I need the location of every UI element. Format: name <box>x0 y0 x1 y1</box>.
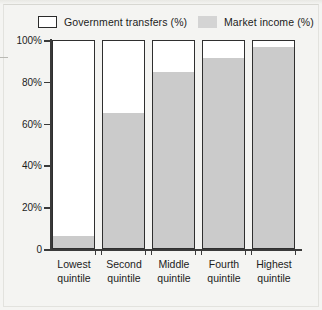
y-axis-tick-label-80: 80% <box>2 76 42 87</box>
bar-second-quintile[interactable] <box>102 40 145 249</box>
x-label-line-1: Highest <box>243 258 305 272</box>
bar-segment-government-transfers <box>203 41 244 58</box>
plot-area <box>52 40 296 249</box>
bar-segment-market-income <box>103 113 144 248</box>
bar-segment-government-transfers <box>103 41 144 113</box>
x-tick-mark <box>195 250 196 255</box>
y-axis-labels: 100% 80% 60% 40% 20% 0 <box>0 0 42 310</box>
y-tick-mark <box>44 207 51 209</box>
legend-item-market-income[interactable]: Market income (%) <box>198 12 314 32</box>
bar-middle-quintile[interactable] <box>152 40 195 249</box>
bar-segment-government-transfers <box>53 41 94 236</box>
legend-label-government-transfers: Government transfers (%) <box>64 16 187 28</box>
x-label-highest-quintile: Highest quintile <box>243 258 305 285</box>
x-tick-mark <box>201 250 202 255</box>
legend-item-government-transfers[interactable]: Government transfers (%) <box>38 12 187 32</box>
y-tick-mark <box>44 249 51 251</box>
bar-lowest-quintile[interactable] <box>52 40 95 249</box>
y-axis-tick-label-20: 20% <box>2 202 42 213</box>
x-axis-category-labels: Lowest quintile Second quintile Middle q… <box>52 258 296 302</box>
x-axis-line <box>50 249 302 251</box>
x-tick-mark <box>151 250 152 255</box>
x-tick-mark <box>295 250 296 255</box>
x-label-line-2: quintile <box>243 272 305 286</box>
bar-fourth-quintile[interactable] <box>202 40 245 249</box>
bar-segment-market-income <box>203 58 244 248</box>
legend-swatch-market-income-icon <box>198 16 217 28</box>
bar-segment-market-income <box>253 47 294 248</box>
x-tick-mark <box>145 250 146 255</box>
y-tick-mark <box>44 165 51 167</box>
x-tick-mark <box>245 250 246 255</box>
y-tick-mark <box>44 40 51 42</box>
bar-segment-market-income <box>153 72 194 248</box>
scan-edge-shading <box>0 0 322 4</box>
y-axis-tick-label-40: 40% <box>2 160 42 171</box>
chart-legend: Government transfers (%) Market income (… <box>30 12 312 32</box>
bar-segment-government-transfers <box>153 41 194 72</box>
x-tick-mark <box>95 250 96 255</box>
legend-label-market-income: Market income (%) <box>224 16 314 28</box>
y-axis-tick-label-60: 60% <box>2 118 42 129</box>
y-axis-tick-label-0: 0 <box>2 244 42 255</box>
y-axis-tick-label-100: 100% <box>2 35 42 46</box>
stacked-bar-chart-figure: Government transfers (%) Market income (… <box>0 0 322 310</box>
x-tick-mark <box>101 250 102 255</box>
y-tick-mark <box>44 124 51 126</box>
y-tick-mark <box>44 82 51 84</box>
bar-highest-quintile[interactable] <box>252 40 295 249</box>
bar-segment-market-income <box>53 236 94 248</box>
x-tick-mark <box>251 250 252 255</box>
